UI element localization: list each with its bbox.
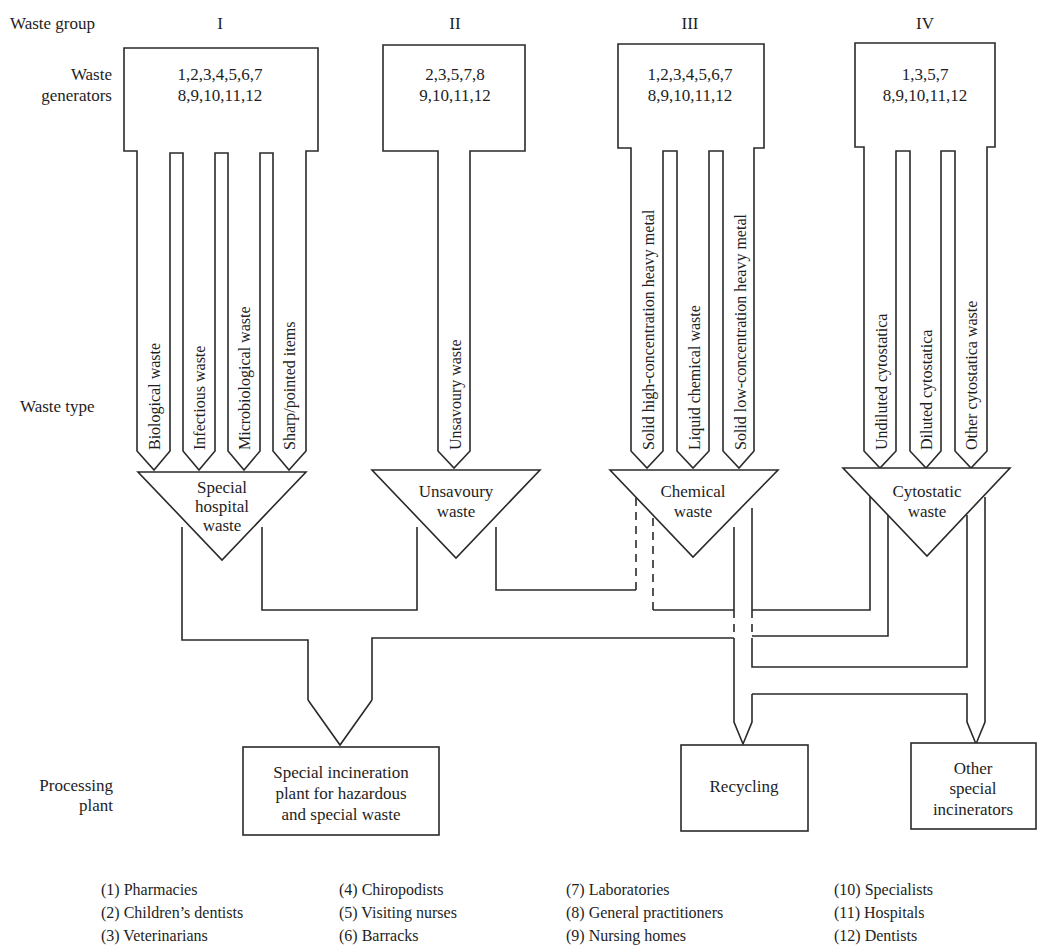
- plant-recycling-label: Recycling: [710, 777, 779, 796]
- group-3: 1,2,3,4,5,6,7 8,9,10,11,12 Solid high-co…: [610, 44, 778, 557]
- plant-other-line3: incinerators: [933, 800, 1013, 819]
- legend-item: (8) General practitioners: [566, 904, 723, 922]
- generators-4-line2: 8,9,10,11,12: [883, 86, 967, 105]
- generators-4-line1: 1,3,5,7: [902, 65, 949, 84]
- generators-3-line1: 1,2,3,4,5,6,7: [648, 65, 734, 84]
- collector-4-line1: Cytostatic: [893, 482, 962, 501]
- collector-2-line2: waste: [437, 502, 476, 521]
- connector-lines: [182, 474, 985, 744]
- collector-1-line1: Special: [197, 478, 247, 497]
- group-numeral-1: I: [217, 14, 223, 33]
- waste-type-solid-high: Solid high-concentration heavy metal: [640, 209, 658, 450]
- legend-item: (2) Children’s dentists: [101, 904, 243, 922]
- legend-item: (4) Chiropodists: [339, 881, 443, 899]
- waste-type-undiluted: Undiluted cytostatica: [873, 314, 891, 450]
- collector-2-line1: Unsavoury: [419, 482, 494, 501]
- generators-2-line1: 2,3,5,7,8: [425, 65, 485, 84]
- waste-type-sharp: Sharp/pointed items: [281, 322, 299, 450]
- plant-incineration-line3: and special waste: [282, 805, 401, 824]
- collector-4-line2: waste: [908, 502, 947, 521]
- group-numeral-4: IV: [916, 14, 935, 33]
- collector-1-line2: hospital: [195, 497, 249, 516]
- plant-other-line1: Other: [954, 759, 993, 778]
- generators-1-line2: 8,9,10,11,12: [178, 86, 262, 105]
- collector-3-line1: Chemical: [660, 482, 725, 501]
- legend-item: (3) Veterinarians: [101, 927, 208, 945]
- legend-item: (5) Visiting nurses: [339, 904, 457, 922]
- generators-2-line2: 9,10,11,12: [419, 86, 491, 105]
- group-4: 1,3,5,7 8,9,10,11,12 Undiluted cytostati…: [843, 43, 1010, 556]
- waste-type-unsavoury: Unsavoury waste: [447, 339, 465, 450]
- group-1: 1,2,3,4,5,6,7 8,9,10,11,12 Biological wa…: [124, 48, 318, 560]
- group-numeral-2: II: [449, 14, 461, 33]
- waste-type-diluted: Diluted cytostatica: [918, 330, 936, 450]
- waste-type-infectious: Infectious waste: [191, 346, 208, 450]
- waste-flow-diagram: Waste group Waste generators Waste type …: [0, 0, 1046, 946]
- generator-legend: (1) Pharmacies (2) Children’s dentists (…: [101, 881, 933, 945]
- row-label-waste-type: Waste type: [20, 397, 95, 416]
- row-label-waste-group: Waste group: [10, 14, 95, 33]
- row-label-processing-2: plant: [79, 796, 113, 815]
- row-label-generators-2: generators: [41, 86, 112, 105]
- waste-type-solid-low: Solid low-concentration heavy metal: [732, 214, 750, 450]
- generators-3-line2: 8,9,10,11,12: [648, 86, 732, 105]
- legend-item: (12) Dentists: [834, 927, 917, 945]
- plant-incineration-line2: plant for hazardous: [275, 784, 406, 803]
- plant-incineration-line1: Special incineration: [273, 763, 409, 782]
- legend-item: (6) Barracks: [339, 927, 419, 945]
- plant-other-line2: special: [949, 779, 996, 798]
- legend-item: (11) Hospitals: [834, 904, 925, 922]
- legend-item: (7) Laboratories: [566, 881, 670, 899]
- legend-item: (1) Pharmacies: [101, 881, 197, 899]
- row-label-generators-1: Waste: [71, 65, 112, 84]
- processing-plants: Special incineration plant for hazardous…: [243, 743, 1036, 835]
- collector-1-line3: waste: [203, 516, 242, 535]
- waste-type-other-cytostatica: Other cytostatica waste: [963, 301, 981, 450]
- legend-item: (9) Nursing homes: [566, 927, 686, 945]
- row-label-processing-1: Processing: [39, 776, 113, 795]
- group-numeral-3: III: [682, 14, 699, 33]
- arrow-to-incineration: [308, 700, 372, 745]
- waste-type-liquid-chemical: Liquid chemical waste: [686, 305, 704, 450]
- generators-1-line1: 1,2,3,4,5,6,7: [178, 65, 264, 84]
- collector-3-line2: waste: [674, 502, 713, 521]
- group-2: 2,3,5,7,8 9,10,11,12 Unsavoury waste Uns…: [372, 45, 540, 558]
- waste-type-biological: Biological waste: [146, 343, 164, 450]
- waste-type-microbiological: Microbiological waste: [236, 306, 254, 450]
- legend-item: (10) Specialists: [834, 881, 933, 899]
